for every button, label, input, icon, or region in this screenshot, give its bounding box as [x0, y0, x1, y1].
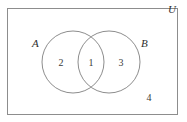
- region-count-a-only: 2: [59, 58, 64, 68]
- universe-label: U: [168, 4, 176, 15]
- region-count-b-only: 3: [119, 58, 124, 68]
- region-count-outside: 4: [147, 93, 152, 103]
- set-b-circle: [78, 31, 140, 93]
- venn-diagram-canvas: [0, 0, 187, 122]
- region-count-intersection: 1: [89, 58, 94, 68]
- set-a-label: A: [32, 38, 39, 49]
- set-b-label: B: [141, 38, 148, 49]
- set-a-circle: [42, 31, 104, 93]
- venn-diagram-figure: U A B 2 1 3 4: [0, 0, 187, 122]
